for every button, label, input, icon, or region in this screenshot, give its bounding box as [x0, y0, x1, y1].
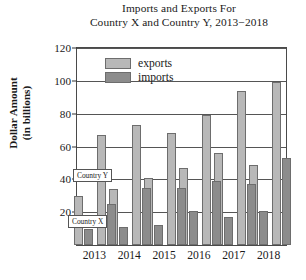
y-axis-label-line-1: Dollar Amount — [7, 43, 20, 183]
bar-group-2016 — [182, 48, 217, 245]
legend-label-exports: exports — [138, 58, 172, 70]
legend-swatch-imports-icon — [105, 72, 131, 83]
legend-item-exports: exports — [105, 58, 173, 70]
x-tick-label-2014: 2014 — [118, 249, 141, 262]
annotation-country-x: Country X — [68, 215, 107, 227]
x-tick-label-2018: 2018 — [257, 249, 280, 262]
bar-country-x-imports-2014 — [119, 227, 128, 245]
bar-country-x-imports-2015 — [154, 225, 163, 245]
y-tick-label-60: 60 — [60, 141, 71, 153]
x-tick-label-2013: 2013 — [83, 249, 106, 262]
chart-figure: Imports and Exports For Country X and Co… — [0, 0, 306, 280]
bar-country-y-exports-2014 — [132, 125, 141, 245]
bar-country-y-exports-2013 — [97, 135, 106, 245]
bar-country-x-imports-2013 — [84, 229, 93, 245]
y-tick-label-40: 40 — [60, 173, 71, 185]
bar-country-x-imports-2017 — [224, 217, 233, 245]
bar-group-2017 — [216, 48, 251, 245]
plot-area: 20406080100120 201320142015201620172018 … — [76, 47, 287, 246]
legend-label-imports: imports — [138, 72, 173, 84]
y-tick-label-100: 100 — [54, 75, 71, 87]
bar-group-2018 — [251, 48, 286, 245]
y-axis-label: Dollar Amount (in billions) — [7, 43, 41, 183]
bar-country-y-imports-2016 — [212, 181, 221, 245]
chart-title-line-1: Imports and Exports For — [56, 2, 302, 16]
chart-legend: exports imports — [105, 58, 173, 85]
y-tick-label-80: 80 — [60, 108, 71, 120]
annotation-country-y: Country Y — [73, 169, 112, 181]
bar-country-y-exports-2017 — [237, 91, 246, 245]
y-tick-label-120: 120 — [54, 42, 71, 54]
bar-country-y-imports-2013 — [107, 204, 116, 245]
bar-country-y-imports-2014 — [142, 188, 151, 245]
chart-title: Imports and Exports For Country X and Co… — [56, 2, 302, 30]
x-tick-label-2015: 2015 — [152, 249, 175, 262]
chart-title-line-2: Country X and Country Y, 2013−2018 — [56, 16, 302, 30]
legend-swatch-exports-icon — [105, 58, 131, 69]
bar-country-x-imports-2016 — [189, 211, 198, 245]
bar-country-y-imports-2018 — [282, 158, 291, 245]
bar-country-y-imports-2017 — [247, 184, 256, 245]
x-tick-label-2017: 2017 — [222, 249, 245, 262]
bar-country-y-exports-2016 — [202, 115, 211, 245]
bar-country-y-imports-2015 — [177, 188, 186, 245]
bar-country-y-exports-2015 — [167, 133, 176, 245]
bar-country-y-exports-2018 — [272, 82, 281, 245]
x-tick-label-2016: 2016 — [187, 249, 210, 262]
legend-item-imports: imports — [105, 72, 173, 84]
y-axis-label-line-2: (in billions) — [20, 43, 33, 183]
bar-country-x-imports-2018 — [259, 211, 268, 245]
